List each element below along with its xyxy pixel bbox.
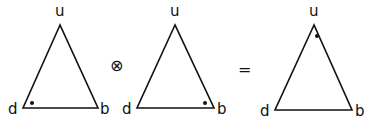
triangle-left: u d b [8, 2, 110, 118]
triangle-middle: u d b [122, 2, 227, 118]
vertex-label-d: d [260, 102, 270, 120]
triangle-middle-shape [137, 25, 214, 108]
equals-operator: = [238, 60, 251, 79]
vertex-label-b: b [217, 100, 227, 118]
tensor-operator: ⊗ [110, 56, 123, 75]
vertex-label-b: b [100, 100, 110, 118]
vertex-label-u: u [170, 2, 180, 20]
triangle-result: u d b [260, 2, 365, 120]
vertex-label-u: u [55, 2, 65, 20]
vertex-label-u: u [309, 2, 319, 20]
triangle-product-diagram: u d b ⊗ u d b = u d b [0, 0, 375, 122]
corner-dot-top [315, 34, 319, 38]
vertex-label-d: d [122, 100, 132, 118]
vertex-label-d: d [8, 100, 18, 118]
triangle-result-shape [275, 25, 352, 110]
triangle-left-shape [23, 25, 98, 108]
corner-dot-left [30, 101, 34, 105]
corner-dot-right [203, 101, 207, 105]
vertex-label-b: b [355, 102, 365, 120]
